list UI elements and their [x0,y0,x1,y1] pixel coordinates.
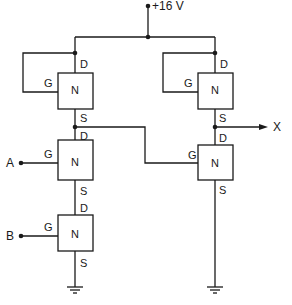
drain-label: D [80,131,88,142]
source-label: S [80,113,87,124]
source-label: S [219,113,226,124]
input-b-label: B [6,230,14,242]
drain-label: D [80,203,88,214]
junction-dot [73,51,78,56]
ground-icon-right [207,287,223,293]
input-b-terminal-dot [19,234,24,239]
drain-label: D [80,59,88,70]
gate-label: G [44,78,53,89]
gate-label: G [184,78,193,89]
junction-dot [213,125,218,130]
type-label: N [71,229,79,240]
type-label: N [71,85,79,96]
type-label: N [211,85,219,96]
junction-dot [213,51,218,56]
type-label: N [211,158,219,169]
output-arrow-icon [259,124,268,130]
junction-dot [73,125,78,130]
type-label: N [71,157,79,168]
drain-label: D [219,133,227,144]
source-label: S [80,258,87,269]
gate-label: G [188,150,197,161]
ground-icon-left [67,287,83,293]
gate-label: G [44,149,53,160]
supply-label: +16 V [152,0,184,12]
input-a-label: A [6,157,14,169]
input-a-terminal-dot [19,161,24,166]
output-label: X [273,121,281,133]
source-label: S [80,186,87,197]
supply-terminal-dot [146,4,151,9]
gate-label: G [44,222,53,233]
drain-label: D [220,59,228,70]
source-label: S [219,185,226,196]
junction-dot [146,35,151,40]
